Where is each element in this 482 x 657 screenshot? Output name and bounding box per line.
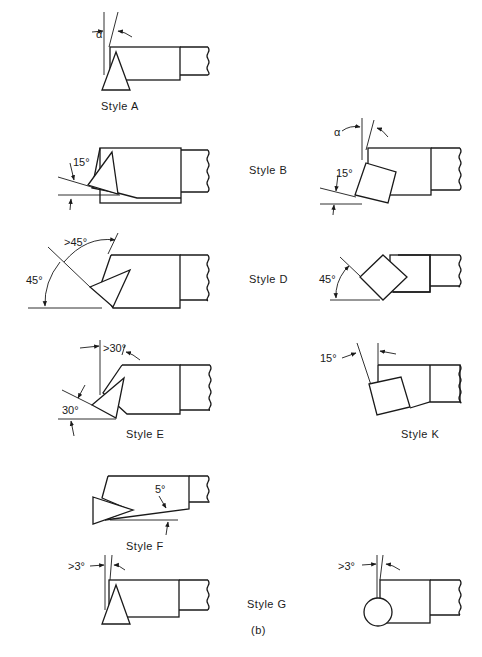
style-b-left-drawing: 15° [58, 148, 209, 210]
style-b-left-15-label: 15° [73, 156, 90, 168]
style-e-drawing: >30° 30° Style E [58, 340, 211, 440]
style-g-left-drawing: >3° [68, 555, 209, 624]
style-f-label: Style F [126, 540, 164, 552]
style-d-left-drawing: >45° 45° [26, 233, 209, 308]
style-b-right-alpha-label: α [334, 126, 341, 138]
style-d-right-drawing: 45° [319, 255, 461, 300]
style-g-right-gt3-label: >3° [338, 560, 355, 572]
style-d-left-45-label: 45° [26, 274, 43, 286]
style-a-label: Style A [101, 100, 139, 112]
style-e-label: Style E [126, 428, 164, 440]
style-b-label: Style B [249, 164, 287, 176]
style-g-label: Style G [247, 598, 287, 610]
style-e-gt30-label: >30° [103, 342, 126, 354]
style-k-15-label: 15° [320, 352, 337, 364]
style-k-drawing: 15° Style K [320, 343, 461, 440]
style-k-label: Style K [401, 428, 440, 440]
style-f-5-label: 5° [155, 483, 166, 495]
style-b-right-15-label: 15° [336, 167, 353, 179]
style-a-alpha-label: α [96, 28, 103, 40]
style-g-right-drawing: >3° [338, 555, 461, 626]
style-b-right-drawing: α 15° [320, 118, 461, 215]
figure-caption: (b) [251, 624, 266, 636]
style-f-drawing: 5° Style F [93, 476, 209, 552]
style-d-right-45-label: 45° [319, 273, 336, 285]
style-g-left-gt3-label: >3° [68, 560, 85, 572]
tool-styles-diagram: α Style A 15° Style B α 15° [0, 0, 482, 657]
style-a-drawing: α Style A [92, 12, 209, 112]
style-e-30-label: 30° [62, 404, 79, 416]
style-d-label: Style D [249, 273, 288, 285]
style-d-gt45-label: >45° [64, 236, 87, 248]
